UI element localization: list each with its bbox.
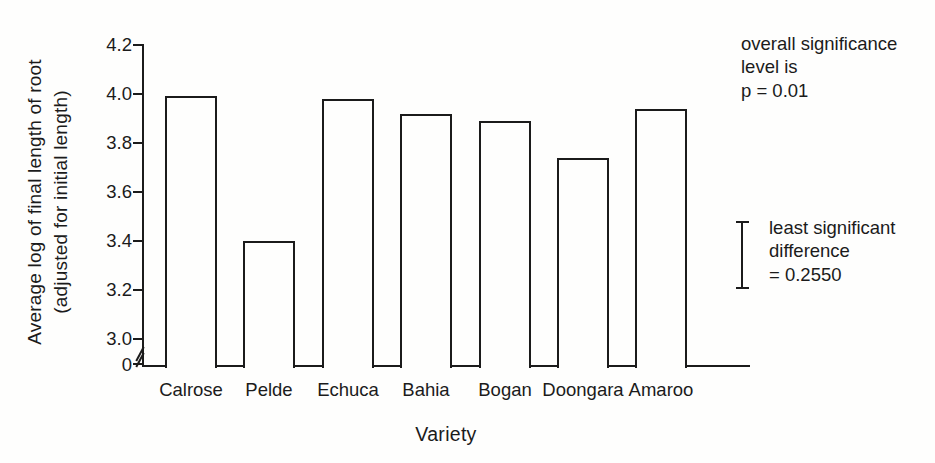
- x-category-label: Amaroo: [629, 379, 694, 401]
- y-tick-label: 4.2: [86, 34, 132, 56]
- bar-bahia: [400, 114, 452, 368]
- y-tick-mark: [133, 338, 142, 340]
- bar-echuca: [322, 99, 374, 368]
- lsd-note-line2: difference: [769, 240, 895, 263]
- lsd-note-value: = 0.2550: [769, 264, 895, 287]
- bar-amaroo: [635, 109, 687, 368]
- bar-pelde: [243, 241, 295, 368]
- lsd-note-line1: least significant: [769, 217, 895, 240]
- x-category-label: Pelde: [245, 379, 292, 401]
- x-category-label: Doongara: [542, 379, 623, 401]
- y-tick-label: 3.0: [86, 328, 132, 350]
- x-axis-title: Variety: [415, 423, 476, 446]
- x-category-label: Calrose: [159, 379, 223, 401]
- y-axis-title-line1: Average log of final length of root: [22, 35, 48, 369]
- y-tick-mark: [133, 142, 142, 144]
- y-tick-label: 4.0: [86, 83, 132, 105]
- y-tick-label-zero: 0: [86, 354, 132, 376]
- significance-note-line2: level is: [741, 56, 897, 79]
- significance-note-line1: overall significance: [741, 33, 897, 56]
- bar-bogan: [479, 121, 531, 368]
- error-bar-stem: [741, 221, 743, 289]
- y-tick-mark: [133, 363, 142, 365]
- y-axis-title-line2: (adjusted for initial length): [48, 35, 74, 369]
- y-tick-label: 3.2: [86, 279, 132, 301]
- error-bar-icon: [736, 221, 749, 289]
- x-category-label: Bogan: [478, 379, 532, 401]
- y-axis-title: Average log of final length of root (adj…: [22, 35, 74, 369]
- y-tick-mark: [133, 191, 142, 193]
- y-tick-mark: [133, 93, 142, 95]
- y-tick-mark: [133, 44, 142, 46]
- y-tick-label: 3.4: [86, 230, 132, 252]
- y-tick-label: 3.6: [86, 181, 132, 203]
- y-axis-line: [142, 44, 144, 367]
- bar-calrose: [165, 96, 217, 368]
- bar-chart-figure: Average log of final length of root (adj…: [0, 0, 935, 463]
- x-category-label: Echuca: [317, 379, 379, 401]
- error-bar-bottom-cap: [736, 287, 749, 289]
- bar-doongara: [557, 158, 609, 368]
- significance-note: overall significance level is p = 0.01: [741, 33, 897, 103]
- y-tick-label: 3.8: [86, 132, 132, 154]
- lsd-note: least significant difference = 0.2550: [769, 217, 895, 287]
- significance-note-pvalue: p = 0.01: [741, 80, 897, 103]
- x-category-label: Bahia: [402, 379, 449, 401]
- y-tick-mark: [133, 240, 142, 242]
- y-tick-mark: [133, 289, 142, 291]
